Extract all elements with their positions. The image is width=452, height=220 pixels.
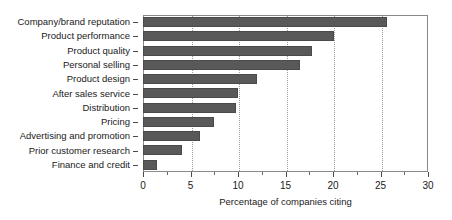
category-label: Distribution <box>82 102 130 113</box>
category-tick <box>133 94 138 95</box>
bar-row <box>143 58 428 72</box>
bar <box>143 74 257 84</box>
bar-chart: Company/brand reputationProduct performa… <box>0 0 452 220</box>
x-tick-label: 15 <box>280 180 291 191</box>
x-tick-major <box>333 172 334 177</box>
category-label: Product quality <box>67 45 130 56</box>
bar-row <box>143 72 428 86</box>
x-axis-title: Percentage of companies citing <box>143 196 428 207</box>
x-tick-major <box>191 172 192 177</box>
category-label: Product performance <box>41 30 130 41</box>
x-tick-label: 20 <box>327 180 338 191</box>
bar <box>143 31 334 41</box>
x-tick-minor <box>262 172 263 175</box>
x-tick-minor <box>404 172 405 175</box>
category-label: Advertising and promotion <box>20 130 130 141</box>
bar <box>143 131 200 141</box>
bar-row <box>143 143 428 157</box>
category-label: Pricing <box>101 116 130 127</box>
bar-row <box>143 101 428 115</box>
x-tick-minor <box>214 172 215 175</box>
category-label: Finance and credit <box>52 159 130 170</box>
x-tick-label: 0 <box>140 180 146 191</box>
bar <box>143 88 238 98</box>
category-tick <box>133 122 138 123</box>
category-axis-labels: Company/brand reputationProduct performa… <box>0 15 138 172</box>
bar-row <box>143 15 428 29</box>
bar <box>143 103 236 113</box>
bar <box>143 145 182 155</box>
bar-row <box>143 86 428 100</box>
category-tick <box>133 36 138 37</box>
x-tick-major <box>143 172 144 177</box>
bar <box>143 17 387 27</box>
category-tick <box>133 65 138 66</box>
category-tick <box>133 79 138 80</box>
x-tick-label: 10 <box>232 180 243 191</box>
x-tick-label: 30 <box>422 180 433 191</box>
category-label: After sales service <box>52 88 130 99</box>
bars-layer <box>143 15 428 172</box>
bar-row <box>143 129 428 143</box>
x-axis-ticks <box>143 172 428 180</box>
x-tick-major <box>381 172 382 177</box>
category-label: Product design <box>67 73 130 84</box>
category-label: Prior customer research <box>29 145 130 156</box>
x-tick-minor <box>309 172 310 175</box>
x-tick-major <box>238 172 239 177</box>
category-tick <box>133 165 138 166</box>
category-label: Company/brand reputation <box>18 16 131 27</box>
x-tick-label: 25 <box>375 180 386 191</box>
category-tick <box>133 22 138 23</box>
category-tick <box>133 51 138 52</box>
bar-row <box>143 158 428 172</box>
bar <box>143 46 312 56</box>
x-axis-tick-labels: 051015202530 <box>143 180 428 194</box>
x-tick-minor <box>167 172 168 175</box>
bar <box>143 60 300 70</box>
category-label: Personal selling <box>63 59 130 70</box>
x-tick-minor <box>357 172 358 175</box>
category-tick <box>133 151 138 152</box>
x-tick-major <box>286 172 287 177</box>
x-tick-major <box>428 172 429 177</box>
category-tick <box>133 108 138 109</box>
bar <box>143 160 157 170</box>
x-tick-label: 5 <box>188 180 194 191</box>
bar-row <box>143 44 428 58</box>
bar <box>143 117 214 127</box>
category-tick <box>133 136 138 137</box>
bar-row <box>143 29 428 43</box>
bar-row <box>143 115 428 129</box>
